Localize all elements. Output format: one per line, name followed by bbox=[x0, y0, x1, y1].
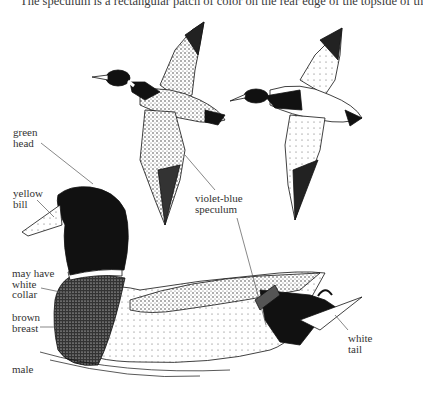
label-line: may have bbox=[12, 268, 54, 279]
label-line: breast bbox=[12, 323, 40, 334]
label-line: tail bbox=[348, 344, 372, 355]
label-line: brown bbox=[12, 312, 40, 323]
label-line: green bbox=[13, 127, 37, 138]
swimming-male-duck bbox=[22, 187, 362, 377]
label-line: speculum bbox=[195, 204, 243, 215]
label-white-tail: white tail bbox=[348, 333, 372, 354]
label-line: yellow bbox=[13, 188, 43, 199]
label-line: violet-blue bbox=[195, 193, 243, 204]
label-brown-breast: brown breast bbox=[12, 312, 40, 333]
label-line: head bbox=[13, 138, 37, 149]
label-collar: may have white collar bbox=[12, 268, 54, 300]
label-line: collar bbox=[12, 289, 54, 300]
flying-duck-right bbox=[230, 28, 362, 220]
label-yellow-bill: yellow bill bbox=[13, 188, 43, 209]
label-line: white bbox=[348, 333, 372, 344]
label-line: bill bbox=[13, 199, 43, 210]
label-male: male bbox=[12, 364, 33, 375]
label-speculum: violet-blue speculum bbox=[195, 193, 243, 214]
label-green-head: green head bbox=[13, 127, 37, 148]
